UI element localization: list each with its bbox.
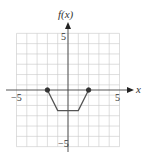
y-tick-neg5: −5 — [58, 138, 69, 149]
y-tick-5: 5 — [61, 31, 66, 42]
y-axis-label: f(x) — [58, 8, 73, 20]
x-tick-neg5: −5 — [11, 92, 22, 103]
x-axis-label: x — [136, 83, 141, 95]
x-tick-5: 5 — [115, 92, 120, 103]
coordinate-plane — [0, 0, 145, 162]
x-axis-arrow-icon — [127, 87, 134, 93]
y-axis-arrow-icon — [65, 22, 71, 29]
